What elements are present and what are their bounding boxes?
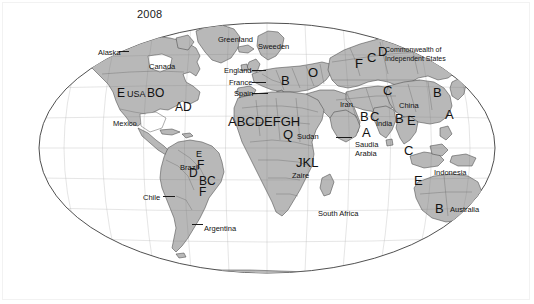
land-antarctica: [44, 270, 480, 300]
land-sri-lanka: [386, 139, 393, 146]
land-new-zealand: [494, 204, 506, 220]
world-map-figure: 2008: [0, 0, 534, 304]
land-ireland: [241, 64, 248, 71]
land-arctic-islands: [128, 28, 154, 36]
land-siberia-east: [444, 40, 470, 62]
land-tasmania: [458, 225, 468, 231]
land-new-zealand-south: [488, 220, 498, 230]
land-aleutians: [44, 61, 60, 66]
world-map-canvas: [0, 0, 534, 304]
